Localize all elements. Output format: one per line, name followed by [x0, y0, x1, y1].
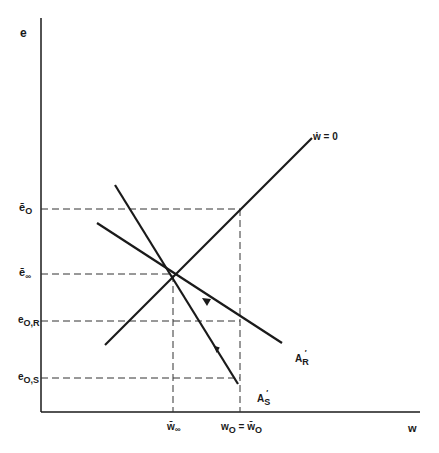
- x-axis-label: w: [407, 422, 417, 434]
- A-S-label: AS′: [257, 388, 270, 407]
- wdot-zero-line: [105, 138, 312, 345]
- x-tick-w-0: wO = w̄O: [220, 421, 262, 435]
- arrow-icon: [202, 298, 211, 306]
- A-R-label: AR′: [295, 348, 309, 367]
- y-tick-e-0S: eO,S: [18, 371, 39, 385]
- x-tick-w-bar-inf: w̄∞: [166, 421, 181, 434]
- A-S-line: [115, 185, 238, 384]
- phase-diagram: e w ēO ē∞ eO,R eO,S w̄∞ wO = w̄O ẇ = 0 A…: [0, 0, 439, 453]
- y-axis-label: e: [20, 26, 27, 40]
- wdot-zero-label: ẇ = 0: [312, 131, 338, 142]
- y-tick-e-bar-0: ēO: [19, 201, 32, 216]
- y-tick-e-0R: eO,R: [18, 314, 40, 328]
- y-tick-e-bar-inf: ē∞: [19, 266, 31, 281]
